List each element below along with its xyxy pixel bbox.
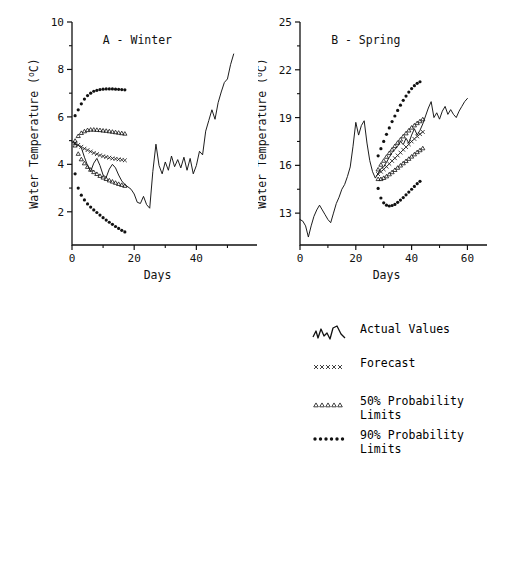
series-forecast xyxy=(73,141,127,162)
axis-spine xyxy=(300,22,487,245)
panel-b: 13161922250204060B - SpringDaysWater Tem… xyxy=(258,0,505,292)
series-50-probability-limits xyxy=(73,128,127,143)
x-marks-icon xyxy=(312,358,346,380)
series-actual-values xyxy=(300,98,467,237)
legend-label: Actual Values xyxy=(360,322,450,336)
triangle-marks-icon xyxy=(312,396,346,418)
x-tick-label: 20 xyxy=(349,252,362,265)
y-tick-label: 19 xyxy=(279,112,292,125)
axis-spine xyxy=(72,22,257,245)
panel-a: 24681002040A - WinterDaysWater Temperatu… xyxy=(0,0,258,292)
y-tick-label: 4 xyxy=(57,158,64,171)
series-90-probability-limits xyxy=(377,180,422,208)
legend-item-p50: 50% ProbabilityLimits xyxy=(312,394,464,422)
x-tick-label: 20 xyxy=(128,252,141,265)
x-tick-label: 40 xyxy=(405,252,418,265)
y-axis-title: Water Temperature (oC) xyxy=(258,58,269,208)
x-tick-label: 0 xyxy=(69,252,76,265)
legend-item-forecast: Forecast xyxy=(312,356,415,380)
y-tick-label: 2 xyxy=(57,206,64,219)
legend-label-line2: Limits xyxy=(360,442,464,456)
svg-text:Water Temperature (oC): Water Temperature (oC) xyxy=(27,58,41,208)
series-50-probability-limits xyxy=(376,146,425,180)
legend-label: 90% Probability xyxy=(360,428,464,442)
dot-marks-icon xyxy=(312,430,346,452)
y-tick-label: 25 xyxy=(279,16,292,29)
legend-label-line2: Limits xyxy=(360,408,464,422)
panel-title: B - Spring xyxy=(331,33,400,47)
x-axis-title: Days xyxy=(144,268,172,282)
y-tick-label: 22 xyxy=(279,64,292,77)
legend-label: 50% Probability xyxy=(360,394,464,408)
y-tick-label: 10 xyxy=(51,16,64,29)
svg-text:Water Temperature (oC): Water Temperature (oC) xyxy=(258,58,269,208)
x-axis-title: Days xyxy=(373,268,401,282)
y-tick-label: 8 xyxy=(57,63,64,76)
y-tick-label: 6 xyxy=(57,111,64,124)
panel-title: A - Winter xyxy=(103,33,172,47)
y-tick-label: 13 xyxy=(279,207,292,220)
x-tick-label: 0 xyxy=(297,252,304,265)
legend-item-actual: Actual Values xyxy=(312,322,450,346)
x-tick-label: 40 xyxy=(190,252,203,265)
x-tick-label: 60 xyxy=(461,252,474,265)
y-axis-title: Water Temperature (oC) xyxy=(27,58,41,208)
legend-item-p90: 90% ProbabilityLimits xyxy=(312,428,464,456)
legend-label: Forecast xyxy=(360,356,415,370)
series-90-probability-limits xyxy=(377,80,422,157)
series-90-probability-limits xyxy=(74,87,127,117)
panel-c: 232629320204060C - SummerDaysWater Tempe… xyxy=(0,300,290,562)
zigzag-line-icon xyxy=(312,324,346,346)
legend: Actual ValuesForecast50% ProbabilityLimi… xyxy=(312,322,505,472)
y-tick-label: 16 xyxy=(279,159,292,172)
